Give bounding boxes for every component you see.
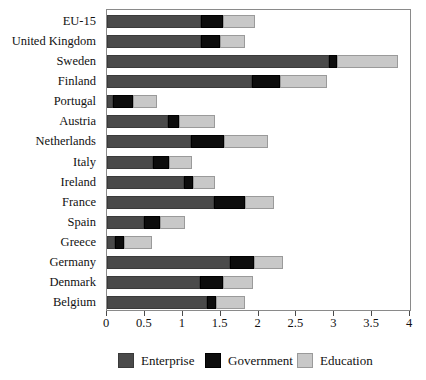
legend-item-edu[interactable]: Education [297,350,373,370]
chart-legend: EnterpriseGovernmentEducation [0,350,426,372]
bar-segment-government [214,196,245,209]
x-axis-tick-label: 0 [103,317,109,330]
bar-segment-enterprise [107,135,191,148]
x-axis-tick-label: 4 [406,317,412,330]
bar-segment-enterprise [107,156,153,169]
bars-container [107,10,410,310]
bar-segment-government [191,135,224,148]
x-axis-tick-label: 2.5 [288,317,304,330]
legend-item-gov[interactable]: Government [205,350,293,370]
bar-segment-enterprise [107,35,201,48]
bar-segment-enterprise [107,75,252,88]
bar-segment-government [252,75,281,88]
bar-segment-enterprise [107,276,200,289]
bar-segment-enterprise [107,256,230,269]
legend-label: Government [228,354,293,367]
legend-swatch-gov-icon [205,353,221,368]
legend-label: Education [320,354,373,367]
y-axis-label: Spain [68,216,96,229]
y-axis-label: Sweden [56,55,96,68]
bar-segment-government [207,296,216,309]
y-axis-category-labels: EU-15United KingdomSwedenFinlandPortugal… [0,9,100,311]
bar-segment-government [113,95,133,108]
bar-segment-government [153,156,169,169]
bar-segment-education [223,276,253,289]
bar-segment-education [160,216,185,229]
y-axis-label: Ireland [61,176,96,189]
bar-segment-education [124,236,151,249]
y-axis-label: France [62,196,96,209]
y-axis-label: Greece [61,236,96,249]
bar-segment-education [280,75,327,88]
bar-segment-government [230,256,254,269]
bar-segment-enterprise [107,196,214,209]
bar-segment-enterprise [107,176,184,189]
x-axis: 00.511.522.533.54 [106,311,411,312]
y-axis-label: EU-15 [63,15,96,28]
bar-segment-education [254,256,283,269]
legend-swatch-ent-icon [118,353,134,368]
y-axis-label: Belgium [53,296,96,309]
bar-segment-government [200,276,223,289]
legend-label: Enterprise [141,354,194,367]
bar-segment-education [133,95,157,108]
x-axis-tick-label: 1 [179,317,185,330]
bar-segment-education [337,55,398,68]
bar-segment-government [329,55,337,68]
y-axis-label: Netherlands [36,135,96,148]
x-axis-tick-label: 0.5 [136,317,152,330]
bar-segment-enterprise [107,15,201,28]
legend-item-ent[interactable]: Enterprise [118,350,194,370]
x-axis-tick-label: 3 [330,317,336,330]
bar-segment-enterprise [107,236,115,249]
bar-segment-education [220,35,245,48]
bar-segment-education [169,156,192,169]
bar-segment-education [224,135,267,148]
bar-segment-enterprise [107,216,144,229]
bar-segment-government [115,236,124,249]
y-axis-label: Germany [49,256,96,269]
x-axis-tick-label: 3.5 [363,317,379,330]
y-axis-label: Austria [59,115,96,128]
bar-segment-government [201,15,223,28]
bar-segment-education [193,176,216,189]
stacked-bar-chart-figure: EU-15United KingdomSwedenFinlandPortugal… [0,0,426,380]
y-axis-label: United Kingdom [12,35,96,48]
bar-segment-enterprise [107,55,329,68]
bar-segment-government [201,35,220,48]
bar-segment-government [168,115,179,128]
bar-segment-education [223,15,255,28]
bar-segment-education [245,196,274,209]
y-axis-label: Finland [58,75,96,88]
legend-swatch-edu-icon [297,353,313,368]
bar-segment-government [184,176,192,189]
x-axis-tick-label: 1.5 [212,317,228,330]
x-axis-tick-label: 2 [254,317,260,330]
y-axis-label: Italy [73,156,96,169]
bar-segment-enterprise [107,296,207,309]
plot-area [106,9,411,311]
bar-segment-enterprise [107,115,168,128]
y-axis-label: Denmark [49,276,96,289]
y-axis-label: Portugal [54,95,96,108]
bar-segment-education [179,115,215,128]
bar-segment-education [216,296,245,309]
bar-segment-government [144,216,160,229]
